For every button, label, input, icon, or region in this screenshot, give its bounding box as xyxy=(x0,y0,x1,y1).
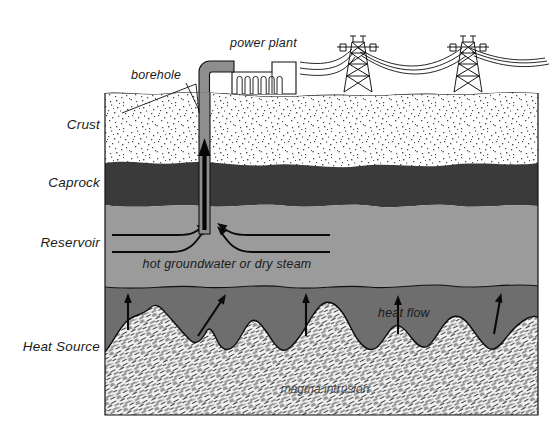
geothermal-diagram: Crust Caprock Reservoir Heat Source bore… xyxy=(0,0,558,440)
power-lines xyxy=(300,48,549,75)
layer-crust xyxy=(105,88,538,168)
power-plant-label: power plant xyxy=(229,36,297,50)
layer-label-group: Crust Caprock Reservoir Heat Source xyxy=(23,117,101,354)
layer-label-heat-source: Heat Source xyxy=(23,339,100,354)
heat-flow-label: heat flow xyxy=(378,306,431,320)
geology-block xyxy=(105,88,538,418)
layer-label-caprock: Caprock xyxy=(48,175,101,190)
layer-reservoir xyxy=(105,205,538,289)
magma-intrusion-label: magma intrusion xyxy=(281,382,370,396)
borehole-riser xyxy=(199,61,234,94)
layer-label-reservoir: Reservoir xyxy=(40,235,100,250)
transmission-tower-left xyxy=(337,36,379,92)
borehole-label: borehole xyxy=(131,68,181,82)
borehole-pipe xyxy=(198,88,210,234)
power-plant-building xyxy=(232,62,296,94)
layer-label-crust: Crust xyxy=(67,117,101,132)
layer-caprock xyxy=(105,162,538,207)
reservoir-fluid-label: hot groundwater or dry steam xyxy=(143,257,312,271)
